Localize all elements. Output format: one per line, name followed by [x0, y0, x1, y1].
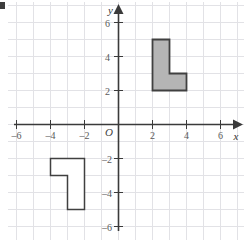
- coordinate-plane-svg: –6 –4 –2 2 4 6 6 4 2 –2 –4 –6 O y x: [0, 0, 246, 242]
- x-tick-label-neg6: –6: [11, 130, 22, 141]
- figure-background: [0, 0, 246, 242]
- y-tick-label-4: 4: [105, 52, 110, 63]
- x-tick-label-neg4: –4: [45, 130, 56, 141]
- corner-mark-icon: [0, 2, 5, 9]
- x-tick-label-2: 2: [150, 130, 155, 141]
- y-axis-label: y: [107, 4, 113, 16]
- coordinate-plane-figure: –6 –4 –2 2 4 6 6 4 2 –2 –4 –6 O y x: [0, 0, 246, 242]
- x-tick-label-6: 6: [218, 130, 223, 141]
- y-tick-label-neg2: –2: [101, 154, 112, 165]
- y-tick-label-6: 6: [105, 18, 110, 29]
- x-tick-label-neg2: –2: [79, 130, 90, 141]
- x-axis-label: x: [233, 130, 239, 142]
- x-tick-label-4: 4: [184, 130, 189, 141]
- y-tick-label-neg4: –4: [101, 188, 112, 199]
- y-tick-label-2: 2: [105, 86, 110, 97]
- y-tick-label-neg6: –6: [101, 222, 112, 233]
- origin-label: O: [105, 126, 113, 138]
